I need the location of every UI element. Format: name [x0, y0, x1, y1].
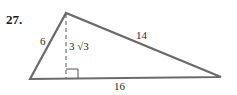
right-angle-mark	[66, 69, 78, 78]
right-side-label: 14	[136, 29, 147, 41]
left-side-label: 6	[40, 35, 46, 47]
triangle-outline	[30, 13, 221, 79]
base-label: 16	[114, 80, 125, 92]
altitude-label: 3 √3	[69, 40, 89, 52]
